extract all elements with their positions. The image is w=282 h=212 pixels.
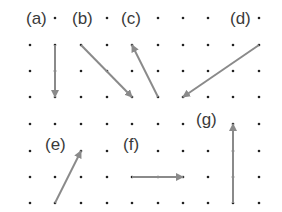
grid-dot [131, 70, 134, 73]
grid-dot [106, 176, 109, 179]
arrow-e-icon [55, 151, 81, 203]
grid-dot [106, 202, 109, 205]
grid-dot [182, 70, 185, 73]
grid-dot [232, 44, 235, 47]
grid-dot [106, 123, 109, 126]
grid-dot [80, 176, 83, 179]
grid-dot [80, 202, 83, 205]
grid-dot [207, 202, 210, 205]
grid-dot [157, 202, 160, 205]
grid-dot [258, 176, 261, 179]
grid-dot [232, 70, 235, 73]
grid-dot [54, 17, 57, 20]
grid-dot [106, 96, 109, 99]
grid-dot [182, 17, 185, 20]
arrow-c-icon [132, 45, 158, 97]
grid-dot [106, 150, 109, 153]
grid-dot [157, 70, 160, 73]
label-f: (f) [122, 136, 140, 154]
grid-dot [29, 44, 32, 47]
grid-dot [29, 70, 32, 73]
grid-dot [232, 96, 235, 99]
grid-dot [106, 44, 109, 47]
grid-dot [207, 70, 210, 73]
label-a: (a) [25, 10, 48, 28]
label-d: (d) [229, 10, 252, 28]
grid-dot [80, 96, 83, 99]
grid-dot [157, 123, 160, 126]
grid-dot [258, 96, 261, 99]
grid-dot [207, 150, 210, 153]
label-e: (e) [44, 136, 67, 154]
label-c: (c) [120, 10, 142, 28]
label-g: (g) [195, 111, 218, 129]
grid-dot [29, 150, 32, 153]
grid-dot [131, 123, 134, 126]
grid-dot [157, 44, 160, 47]
grid-dot [157, 150, 160, 153]
grid-dot [54, 176, 57, 179]
grid-dot [29, 202, 32, 205]
grid-dot [258, 150, 261, 153]
grid-dot [182, 202, 185, 205]
grid-dot [106, 17, 109, 20]
grid-dot [258, 123, 261, 126]
grid-dot [258, 202, 261, 205]
grid-dot [258, 70, 261, 73]
grid-dot [258, 17, 261, 20]
grid-dot [182, 150, 185, 153]
grid-dot [157, 17, 160, 20]
grid-dot [207, 17, 210, 20]
grid-dot [182, 123, 185, 126]
grid-dot [182, 44, 185, 47]
grid-dot [80, 123, 83, 126]
arrow-d-icon [183, 45, 259, 97]
grid-dot [29, 96, 32, 99]
grid-dot [80, 70, 83, 73]
grid-dot [131, 202, 134, 205]
vector-diagram [0, 0, 282, 212]
grid-dot [207, 44, 210, 47]
grid-dot [29, 176, 32, 179]
grid-dot [54, 123, 57, 126]
grid-dot [29, 123, 32, 126]
grid-dot [207, 96, 210, 99]
label-b: (b) [71, 10, 94, 28]
grid-dot [207, 176, 210, 179]
arrow-b-icon [81, 45, 132, 97]
